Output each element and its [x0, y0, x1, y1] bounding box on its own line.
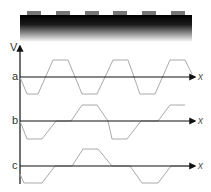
row-label-c: c: [12, 159, 18, 171]
waveform-diagram: V a x b x c x: [0, 0, 211, 192]
waveform-c: c x: [12, 149, 204, 183]
grating-bump: [171, 11, 185, 15]
grating-bump: [85, 11, 99, 15]
v-axis-label: V: [10, 41, 18, 53]
row-label-b: b: [12, 114, 18, 126]
grating-bump: [56, 11, 70, 15]
row-label-a: a: [12, 70, 19, 82]
gradient-bar: [20, 15, 192, 42]
grating-bump: [142, 11, 156, 15]
grating-bump: [27, 11, 41, 15]
wave-b: [20, 105, 185, 139]
x-axis-label-a: x: [197, 71, 204, 82]
waveform-b: b x: [12, 105, 204, 139]
waveform-a: a x: [12, 60, 204, 94]
grating-bump: [113, 11, 127, 15]
x-axis-label-c: x: [197, 160, 204, 171]
grating-block: [20, 11, 192, 42]
x-axis-label-b: x: [197, 115, 204, 126]
